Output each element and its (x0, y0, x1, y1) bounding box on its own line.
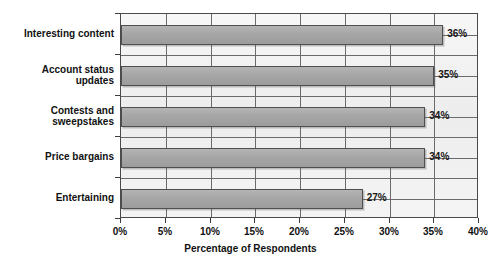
x-tick-label: 40% (458, 226, 498, 237)
bar (121, 107, 425, 127)
x-tick-label: 35% (413, 226, 453, 237)
x-tick-label: 10% (190, 226, 230, 237)
bar (121, 25, 443, 45)
x-tick-label: 15% (234, 226, 274, 237)
bar (121, 148, 425, 168)
bar-value-label: 35% (438, 70, 458, 80)
y-tick-mark (115, 177, 120, 178)
y-tick-mark (115, 136, 120, 137)
x-tick-mark (299, 218, 300, 223)
x-tick-label: 0% (100, 226, 140, 237)
gridline-horizontal (121, 96, 477, 97)
x-tick-label: 20% (279, 226, 319, 237)
gridline-horizontal (121, 55, 477, 56)
x-tick-mark (389, 218, 390, 223)
x-tick-mark (165, 218, 166, 223)
x-tick-label: 25% (324, 226, 364, 237)
bar-value-label: 36% (447, 29, 467, 39)
plot-area (120, 13, 478, 218)
x-tick-label: 30% (369, 226, 409, 237)
bar (121, 189, 363, 209)
x-tick-mark (433, 218, 434, 223)
x-tick-mark (210, 218, 211, 223)
x-axis-title: Percentage of Respondents (0, 243, 501, 254)
category-label: Price bargains (0, 151, 114, 162)
category-label: Entertaining (0, 192, 114, 203)
bar-value-label: 34% (429, 152, 449, 162)
bar (121, 66, 434, 86)
y-tick-mark (115, 54, 120, 55)
x-tick-label: 5% (145, 226, 185, 237)
gridline-horizontal (121, 137, 477, 138)
gridline-horizontal (121, 178, 477, 179)
x-tick-mark (254, 218, 255, 223)
y-tick-mark (115, 13, 120, 14)
bar-value-label: 27% (367, 193, 387, 203)
y-tick-mark (115, 95, 120, 96)
category-label: Contests and sweepstakes (0, 105, 114, 127)
x-tick-mark (344, 218, 345, 223)
category-label: Account status updates (0, 64, 114, 86)
bar-chart: Interesting contentAccount status update… (0, 0, 501, 268)
x-tick-mark (120, 218, 121, 223)
bar-value-label: 34% (429, 111, 449, 121)
x-tick-mark (478, 218, 479, 223)
category-label: Interesting content (0, 28, 114, 39)
